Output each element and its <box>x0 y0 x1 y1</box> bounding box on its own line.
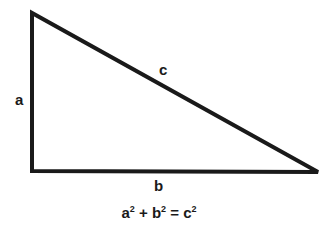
formula-b: b <box>152 204 161 221</box>
formula-b-exponent: 2 <box>161 204 166 214</box>
right-triangle <box>0 0 336 229</box>
side-a-label: a <box>15 92 23 107</box>
side-b-label: b <box>154 178 163 193</box>
formula-a: a <box>121 204 129 221</box>
hypotenuse-c-label: c <box>159 62 167 77</box>
formula-a-exponent: 2 <box>130 204 135 214</box>
formula-c-exponent: 2 <box>192 204 197 214</box>
formula-plus: + <box>139 204 148 221</box>
pythagorean-formula: a2 + b2 = c2 <box>0 204 318 221</box>
triangle-outline <box>32 13 318 172</box>
formula-equals: = <box>170 204 179 221</box>
formula-c: c <box>183 204 191 221</box>
